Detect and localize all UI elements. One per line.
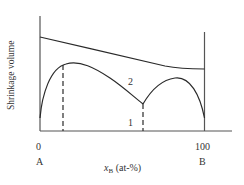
y-axis-label: Shrinkage volume — [6, 41, 16, 110]
x-axis-label: xB (at-%) — [104, 163, 141, 175]
x-tick-0: 0 — [36, 142, 41, 152]
curve-1 — [143, 78, 205, 118]
x-axis-unit: (at-%) — [113, 162, 141, 173]
x-end-label-a: A — [36, 157, 43, 167]
curve-2 — [40, 63, 143, 118]
x-end-label-b: B — [199, 157, 206, 167]
x-tick-100: 100 — [195, 142, 210, 152]
curve-label-1: 1 — [128, 118, 133, 128]
curve-label-2: 2 — [128, 77, 133, 87]
